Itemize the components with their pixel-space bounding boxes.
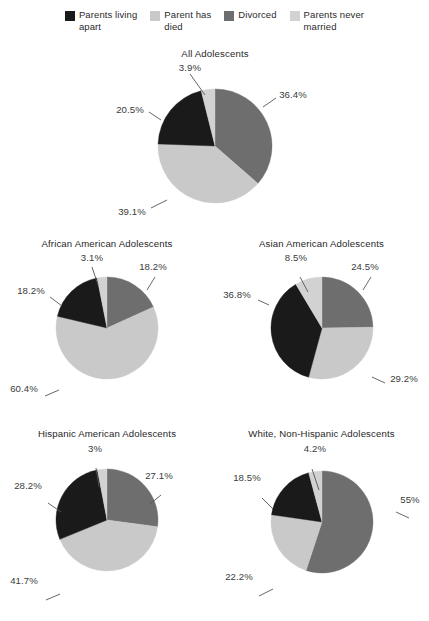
legend-swatch-icon <box>65 11 75 21</box>
slice-label-never-married: 4.2% <box>304 443 326 454</box>
legend-swatch-icon <box>290 11 300 21</box>
pie-slice <box>322 277 373 328</box>
legend-item-parents-living-apart: Parents living apart <box>65 9 137 32</box>
slice-label-parent-died: 22.2% <box>225 571 253 582</box>
pie-graphic <box>55 276 159 380</box>
chart-title: White, Non-Hispanic Adolescents <box>214 428 429 439</box>
slice-label-never-married: 3.9% <box>179 62 201 73</box>
pie-svg <box>55 468 159 572</box>
slice-label-divorced: 36.4% <box>279 89 307 100</box>
pie-graphic <box>157 88 273 204</box>
slice-label-parent-died: 60.4% <box>10 383 38 394</box>
legend-item-label: Parents living apart <box>79 9 137 32</box>
slice-label-never-married: 3% <box>88 443 102 454</box>
pie-graphic <box>55 468 159 572</box>
legend-swatch-icon <box>150 11 160 21</box>
slice-label-parent-died: 41.7% <box>10 575 38 586</box>
pie-chart-white-non-hispanic-adolescents: White, Non-Hispanic Adolescents 4.2% 55%… <box>214 428 429 621</box>
legend-swatch-icon <box>224 11 234 21</box>
legend-item-label: Divorced <box>238 9 276 21</box>
slice-label-divorced: 55% <box>400 494 420 505</box>
chart-legend: Parents living apart Parent has died Div… <box>0 0 429 46</box>
pie-chart-all-adolescents: All Adolescents 3.9% 36.4% 20.5% 39.1% <box>106 48 324 228</box>
legend-item-parents-never-married: Parents never married <box>290 9 364 32</box>
slice-label-living-apart: 20.5% <box>116 104 144 115</box>
pie-graphic <box>270 276 374 380</box>
slice-label-living-apart: 28.2% <box>14 480 42 491</box>
legend-item-label: Parents never married <box>304 9 364 32</box>
pie-svg <box>270 276 374 380</box>
chart-title: All Adolescents <box>106 48 324 59</box>
pie-chart-african-american-adolescents: African American Adolescents 3.1% 18.2% … <box>0 238 214 418</box>
pie-chart-asian-american-adolescents: Asian American Adolescents 8.5% 24.5% 36… <box>214 238 429 418</box>
chart-title: Asian American Adolescents <box>214 238 429 249</box>
slice-label-living-apart: 18.2% <box>17 285 45 296</box>
slice-label-living-apart: 18.5% <box>233 472 261 483</box>
pie-chart-hispanic-american-adolescents: Hispanic American Adolescents 3% 27.1% 2… <box>0 428 214 621</box>
slice-label-parent-died: 29.2% <box>390 373 418 384</box>
pie-svg <box>55 276 159 380</box>
pie-svg <box>270 470 374 574</box>
slice-label-divorced: 27.1% <box>145 470 173 481</box>
slice-label-living-apart: 36.8% <box>223 289 251 300</box>
chart-title: African American Adolescents <box>0 238 214 249</box>
pie-graphic <box>270 470 374 574</box>
slice-label-divorced: 24.5% <box>351 261 379 272</box>
chart-title: Hispanic American Adolescents <box>0 428 214 439</box>
slice-label-never-married: 3.1% <box>81 252 103 263</box>
slice-label-divorced: 18.2% <box>139 261 167 272</box>
legend-item-divorced: Divorced <box>224 9 276 21</box>
slice-label-never-married: 8.5% <box>285 252 307 263</box>
pie-svg <box>157 88 273 204</box>
slice-label-parent-died: 39.1% <box>118 206 146 217</box>
legend-item-label: Parent has died <box>164 9 211 32</box>
legend-item-parent-has-died: Parent has died <box>150 9 211 32</box>
